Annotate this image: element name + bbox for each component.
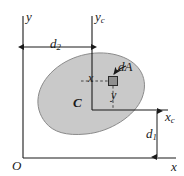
area-element-dA [109,77,118,86]
centroid-diagram: y yc xc x O d2 d1 C dA x y [0,0,184,176]
d1-label-sub: 1 [153,132,157,142]
xc-axis-label: xc [165,110,175,123]
yc-axis-label-sub: c [101,15,105,25]
xc-axis-label-main: x [165,109,171,124]
x-distance-label: x [88,72,93,84]
yc-axis-label-main: y [95,9,101,24]
d1-label-main: d [146,126,153,141]
diagram-canvas [0,0,184,176]
yc-axis-label: yc [95,10,105,23]
y-axis-label: y [26,10,32,23]
y-distance-label: y [111,89,116,101]
origin-label: O [12,159,21,172]
x-axis-label: x [171,160,177,173]
centroid-label: C [73,96,82,109]
d2-label-main: d [50,36,57,51]
d2-label: d2 [50,37,61,50]
d2-label-sub: 2 [57,42,61,52]
d1-label: d1 [146,127,157,140]
xc-axis-label-sub: c [171,115,175,125]
area-element-label: dA [118,60,132,73]
